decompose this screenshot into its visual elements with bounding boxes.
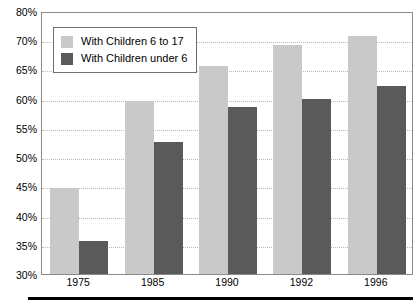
bar [348,36,377,275]
y-tick-label: 65% [3,65,37,76]
legend-entry: With Children 6 to 17 [61,33,187,50]
bar [377,86,406,275]
legend-label: With Children 6 to 17 [81,36,184,47]
bar [50,188,79,275]
legend-label: With Children under 6 [81,53,187,64]
legend-swatch [61,53,73,65]
bar [154,142,183,275]
bar [273,45,302,275]
y-tick-label: 55% [3,124,37,135]
bar [79,241,108,275]
y-tick-label: 45% [3,182,37,193]
y-axis: 80%70%65%60%55%50%45%40%35%30% [0,0,37,306]
y-tick-label: 40% [3,211,37,222]
chart-legend: With Children 6 to 17With Children under… [53,27,197,73]
bar [125,101,154,275]
x-tick-label: 1990 [215,277,238,288]
y-tick-label: 70% [3,36,37,47]
y-tick-label: 80% [3,7,37,18]
x-tick-label: 1992 [290,277,313,288]
bottom-rule [28,297,413,300]
bar [228,107,257,276]
x-tick-label: 1975 [67,277,90,288]
x-tick-label: 1996 [364,277,387,288]
y-tick-label: 50% [3,153,37,164]
bar [199,66,228,275]
x-tick-label: 1985 [141,277,164,288]
bar [302,99,331,275]
y-tick-label: 30% [3,270,37,281]
legend-entry: With Children under 6 [61,50,187,67]
bar-chart-figure: 80%70%65%60%55%50%45%40%35%30% 197519851… [0,0,419,306]
y-tick-label: 35% [3,241,37,252]
legend-swatch [61,36,73,48]
x-axis: 19751985199019921996 [41,277,413,297]
y-tick-label: 60% [3,94,37,105]
